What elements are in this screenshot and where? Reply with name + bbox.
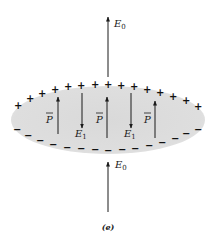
svg-text:+: + — [182, 95, 190, 106]
svg-text:+: + — [91, 79, 99, 90]
svg-text:+: + — [143, 84, 151, 95]
svg-text:+: + — [104, 79, 112, 90]
svg-text:+: + — [51, 84, 59, 95]
p-label: P — [45, 114, 53, 125]
p-label: P — [95, 114, 103, 125]
svg-text:−: − — [145, 140, 153, 151]
svg-text:+: + — [26, 93, 34, 104]
svg-text:−: − — [158, 137, 166, 148]
e0-label-top: E0 — [113, 18, 126, 31]
svg-text:+: + — [130, 81, 138, 92]
svg-text:−: − — [182, 128, 190, 139]
svg-text:−: − — [77, 143, 85, 154]
external-field-arrow-top: E0 — [108, 17, 126, 77]
svg-text:−: − — [36, 135, 44, 146]
svg-text:−: − — [131, 143, 139, 154]
external-field-arrow-bottom: E0 — [108, 159, 127, 212]
svg-text:−: − — [91, 144, 99, 155]
p-label: P — [143, 114, 151, 125]
figure-caption: (e) — [102, 222, 115, 232]
svg-text:+: + — [14, 100, 22, 111]
svg-text:+: + — [64, 81, 72, 92]
svg-text:+: + — [38, 88, 46, 99]
svg-text:−: − — [118, 144, 126, 155]
svg-text:+: + — [77, 80, 85, 91]
dielectric-slab-diagram: E0 + + + + + + + + + + + + + + + − − − −… — [0, 0, 216, 237]
svg-text:−: − — [171, 133, 179, 144]
svg-text:−: − — [104, 145, 112, 156]
svg-text:+: + — [169, 91, 177, 102]
svg-text:−: − — [13, 124, 21, 135]
svg-text:+: + — [117, 80, 125, 91]
e0-label-bottom: E0 — [114, 159, 127, 172]
svg-text:−: − — [63, 142, 71, 153]
svg-text:−: − — [24, 130, 32, 141]
svg-text:+: + — [194, 101, 202, 112]
svg-text:+: + — [156, 87, 164, 98]
svg-text:−: − — [49, 139, 57, 150]
svg-text:−: − — [194, 124, 202, 135]
